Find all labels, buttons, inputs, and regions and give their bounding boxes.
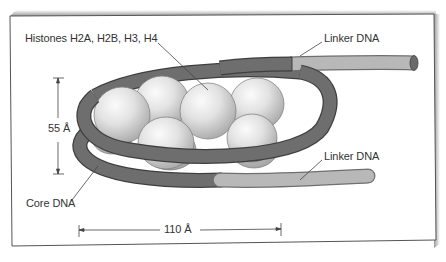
linker-dna-top-label: Linker DNA — [324, 32, 379, 44]
linker-dna-end-cap — [410, 56, 418, 71]
height-dimension-label: 55 Å — [48, 122, 70, 134]
linker-dna-bottom-label: Linker DNA — [324, 150, 379, 162]
histones-label: Histones H2A, H2B, H3, H4 — [25, 32, 158, 44]
core-dna-label: Core DNA — [26, 197, 75, 209]
nucleosome-diagram: Histones H2A, H2B, H3, H4 Linker DNA Lin… — [0, 0, 446, 262]
width-dimension-label: 110 Å — [164, 223, 191, 235]
linker-dna-top — [220, 56, 418, 72]
linker-dna-bottom — [220, 176, 368, 181]
